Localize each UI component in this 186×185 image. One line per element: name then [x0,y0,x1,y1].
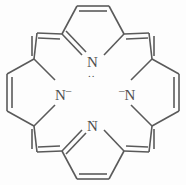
bond-right-bottom-alpha-n [131,105,152,126]
bond-meso-bl-to-left-ring [34,126,37,152]
bond-top-right-beta-alpha [109,6,124,34]
bond-bottom-left-beta-alpha [62,151,77,179]
bottom-nitrogen-symbol: N [87,118,98,134]
bond-meso-bl-to-bottom-ring [37,151,62,152]
bond-meso-tl-to-top-ring-inner [38,38,60,39]
lone-pair-top-nitrogen: .. [88,68,96,79]
bond-lines [7,6,179,179]
atom-label-left-nitrogen: N– [55,85,71,103]
bond-meso-tr-to-top-ring [124,33,149,34]
bond-meso-br-to-bottom-ring [124,151,149,152]
bond-meso-tr-to-right-ring [149,33,152,59]
bond-left-top-alpha-n [34,59,55,80]
bond-bottom-right-alpha-n [104,130,124,151]
chemical-structure-figure: N .. .. N N– –N [0,0,186,185]
bond-left-bottom-alpha-n [34,105,55,126]
bond-right-top-beta-alpha [152,59,179,74]
bond-bottom-right-beta-alpha [109,151,124,179]
bond-meso-tl-to-left-ring [34,33,37,59]
bond-left-bottom-beta-alpha [7,111,34,126]
bond-top-left-beta-alpha [62,6,77,34]
bond-skeleton-svg [0,0,186,185]
bond-right-bottom-beta-alpha [152,111,179,126]
atom-label-right-nitrogen: –N [119,85,135,103]
bond-meso-br-to-bottom-ring-inner [126,146,148,147]
bond-left-top-beta-alpha [7,59,34,74]
bond-meso-tr-to-top-ring-inner [126,38,148,39]
right-nitrogen-symbol: N [125,87,136,103]
bond-meso-br-to-right-ring [149,126,152,152]
bond-right-top-alpha-n [131,59,152,80]
bond-top-right-alpha-n [104,34,124,55]
left-nitrogen-symbol: N [55,87,66,103]
atom-label-bottom-nitrogen: N [87,119,98,134]
bond-meso-tl-to-top-ring [37,33,62,34]
left-nitrogen-charge: – [66,84,72,96]
bond-meso-bl-to-bottom-ring-inner [38,146,60,147]
